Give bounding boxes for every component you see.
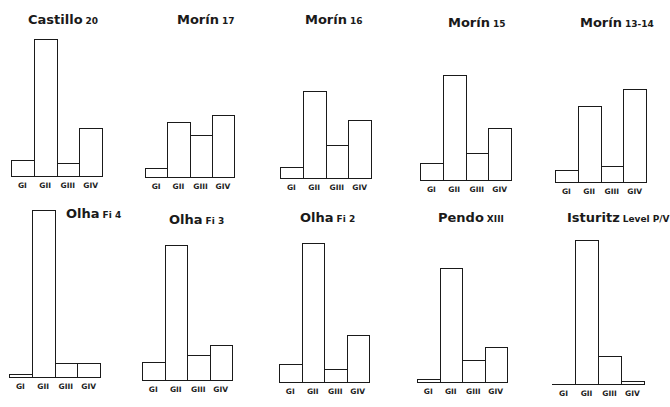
bar-giv [488,128,512,181]
chart-title-sub: 16 [350,16,363,26]
x-tick-label: GII [167,182,189,191]
bar-giii [190,135,214,178]
chart-title: OlhaFi 2 [300,210,355,225]
bar-gii [440,268,464,383]
x-axis-baseline [552,384,645,385]
bar-gi [279,364,303,383]
x-tick-label: GI [11,181,34,190]
bar-giv [623,89,647,183]
chart-title: Morín15 [448,15,506,30]
x-tick-label: GIII [466,185,489,194]
x-axis-baseline [555,182,647,183]
bar-giv [347,335,371,383]
x-tick-label: GIII [57,181,80,190]
x-tick-label: GIV [348,183,371,192]
x-tick-label: GIV [485,387,508,396]
chart-title-main: Olha [66,206,100,221]
bar-giii [462,360,486,383]
bar-giv [348,120,372,179]
x-tick-label: GI [280,183,303,192]
bar-gii [167,122,191,178]
bar-gii [443,75,467,181]
bar-giv [485,347,509,383]
x-tick-label: GIII [324,387,347,396]
x-axis-baseline [145,177,235,178]
x-tick-label: GI [9,382,32,391]
x-tick-label: GII [578,187,601,196]
bar-gi [280,167,304,179]
chart-title-sub: Fi 2 [337,214,356,224]
bar-gi [420,163,444,181]
x-tick-label: GIII [601,187,624,196]
x-axis-baseline [280,178,372,179]
chart-title-main: Olha [300,210,334,225]
bar-giv [77,363,101,378]
bar-gi [11,160,35,177]
x-tick-label: GIII [326,183,349,192]
x-tick-label: GI [552,389,575,398]
bar-giii [57,163,81,177]
chart-title-main: Isturitz [567,210,620,225]
bar-giii [598,356,622,385]
bar-giv [210,345,234,381]
bar-giii [601,166,625,183]
x-tick-label: GI [555,187,578,196]
x-axis-baseline [417,382,508,383]
bar-gii [575,240,599,385]
x-tick-label: GIV [79,181,102,190]
bar-giii [55,363,79,378]
x-tick-label: GI [420,185,443,194]
x-tick-label: GIV [212,182,234,191]
bar-gii [303,91,327,179]
chart-title: Morín16 [305,12,363,27]
x-tick-label: GIV [488,185,511,194]
x-axis-baseline [420,180,512,181]
chart-title: Morín17 [177,12,235,27]
x-tick-label: GI [279,387,302,396]
x-tick-label: GI [417,387,440,396]
x-tick-label: GIII [55,382,78,391]
chart-title-sub: 20 [86,16,99,26]
bar-giii [324,369,348,383]
x-tick-label: GIV [623,187,646,196]
chart-title-sub: Level P/V [623,214,670,224]
chart-title-sub: Fi 4 [103,210,122,220]
x-tick-label: GIII [598,389,621,398]
x-tick-label: GIV [210,385,233,394]
x-axis-baseline [11,176,103,177]
bar-gii [302,243,326,383]
x-tick-label: GII [440,387,463,396]
x-tick-label: GI [142,385,165,394]
x-tick-label: GI [145,182,167,191]
bar-giii [466,153,490,181]
x-tick-label: GIV [77,382,100,391]
bar-giii [326,145,350,179]
chart-title-main: Morín [177,12,219,27]
chart-title: PendoXIII [438,210,504,225]
bar-gi [142,362,166,381]
chart-title-sub: XIII [487,214,504,224]
x-tick-label: GIII [187,385,210,394]
bar-gii [32,210,56,378]
chart-title: Morín13-14 [580,15,654,30]
chart-title-main: Morín [305,12,347,27]
x-axis-baseline [9,377,101,378]
chart-title-sub: Fi 3 [206,216,225,226]
bar-gii [165,245,189,381]
x-tick-label: GII [443,185,466,194]
x-tick-label: GIII [190,182,212,191]
x-tick-label: GII [165,385,188,394]
chart-title: OlhaFi 3 [169,212,224,227]
x-axis-baseline [279,382,370,383]
chart-title-sub: 15 [493,19,506,29]
chart-title-main: Morín [448,15,490,30]
x-tick-label: GII [34,181,57,190]
x-tick-label: GII [32,382,55,391]
chart-title: IsturitzLevel P/V [567,210,670,225]
x-tick-label: GIII [462,387,485,396]
x-tick-label: GIV [621,389,644,398]
chart-title-sub: 17 [222,16,235,26]
chart-title-main: Olha [169,212,203,227]
bar-gii [578,106,602,183]
chart-title-sub: 13-14 [625,19,654,29]
